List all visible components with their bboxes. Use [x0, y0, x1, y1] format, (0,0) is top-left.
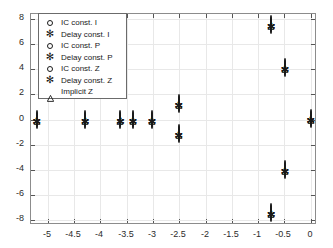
x-axis-tick — [153, 14, 154, 18]
triangle-marker — [33, 111, 40, 128]
legend-marker — [39, 66, 61, 72]
legend-label: Delay const. Z — [61, 75, 112, 86]
circle-marker — [47, 20, 53, 26]
y-axis-tick — [311, 69, 315, 70]
grid-line-vertical — [232, 14, 233, 223]
data-point — [175, 95, 182, 113]
y-axis-tick — [31, 19, 35, 20]
triangle-marker — [148, 111, 155, 128]
y-axis-tick — [31, 69, 35, 70]
x-tick-label: -4 — [84, 229, 114, 239]
grid-line-horizontal — [31, 170, 315, 171]
y-axis-tick — [311, 170, 315, 171]
data-point — [175, 125, 182, 143]
legend-marker: ✻ — [39, 31, 61, 37]
legend-item[interactable]: IC const. P — [39, 40, 126, 52]
data-point — [33, 111, 40, 129]
triangle-marker — [129, 111, 136, 128]
y-axis-tick — [311, 94, 315, 95]
legend-label: IC const. P — [61, 40, 100, 51]
data-point — [148, 111, 155, 129]
grid-line-vertical — [258, 14, 259, 223]
circle-marker — [47, 43, 53, 49]
circle-marker — [47, 66, 53, 72]
asterisk-marker: ✻ — [46, 31, 54, 37]
grid-line-vertical — [284, 14, 285, 223]
x-tick-label: -0.5 — [268, 229, 298, 239]
grid-line-horizontal — [31, 120, 315, 121]
data-point — [117, 111, 124, 129]
triangle-marker — [175, 125, 182, 142]
x-axis-tick — [232, 14, 233, 18]
x-axis-tick — [311, 14, 312, 18]
data-point — [82, 111, 89, 129]
triangle-marker — [47, 88, 54, 95]
legend-label: Implicit Z — [61, 86, 93, 97]
y-tick-label: 2 — [4, 87, 24, 97]
x-tick-label: -2.5 — [163, 229, 193, 239]
triangle-marker — [307, 110, 314, 127]
triangle-marker — [268, 16, 275, 33]
asterisk-marker: ✻ — [46, 77, 54, 83]
triangle-marker — [281, 161, 288, 178]
x-axis-tick — [258, 14, 259, 18]
y-tick-label: 4 — [4, 62, 24, 72]
asterisk-marker: ✻ — [46, 54, 54, 60]
legend-item[interactable]: ✻Delay const. I — [39, 29, 126, 41]
y-tick-label: -4 — [4, 163, 24, 173]
data-point — [268, 16, 275, 34]
y-axis-tick — [31, 220, 35, 221]
x-axis-tick — [284, 14, 285, 18]
y-tick-label: 0 — [4, 113, 24, 123]
y-axis-tick — [311, 220, 315, 221]
y-tick-label: -6 — [4, 188, 24, 198]
grid-line-horizontal — [31, 195, 315, 196]
legend-label: IC const. I — [61, 17, 97, 28]
grid-line-vertical — [206, 14, 207, 223]
legend-marker — [39, 43, 61, 49]
y-axis-tick — [311, 19, 315, 20]
data-point — [281, 161, 288, 179]
data-point — [129, 111, 136, 129]
x-tick-label: 0 — [295, 229, 325, 239]
legend-label: Delay const. I — [61, 29, 109, 40]
y-axis-tick — [311, 44, 315, 45]
y-tick-label: 8 — [4, 12, 24, 22]
triangle-marker — [175, 95, 182, 112]
x-axis-tick — [206, 14, 207, 18]
y-axis-tick — [311, 145, 315, 146]
triangle-marker — [281, 59, 288, 76]
legend-item[interactable]: IC const. Z — [39, 63, 126, 75]
y-tick-label: -8 — [4, 213, 24, 223]
legend-marker: ✻ — [39, 54, 61, 60]
chart-legend[interactable]: IC const. I✻Delay const. IIC const. P✻De… — [38, 13, 127, 99]
data-point — [307, 110, 314, 128]
legend-marker — [39, 20, 61, 26]
y-axis-tick — [311, 195, 315, 196]
legend-item[interactable]: Implicit Z — [39, 86, 126, 98]
x-axis-tick — [179, 14, 180, 18]
y-axis-tick — [31, 94, 35, 95]
legend-item[interactable]: ✻Delay const. Z — [39, 75, 126, 87]
triangle-marker — [82, 111, 89, 128]
legend-item[interactable]: IC const. I — [39, 17, 126, 29]
figure-canvas: ✻✻✻✻✻✻✻✻✻✻✻✻✻✻✻✻✻✻✻✻✻✻✻✻✻✻✻✻✻✻✻✻✻✻✻✻ -5-… — [0, 0, 333, 248]
grid-line-vertical — [179, 14, 180, 223]
triangle-marker — [268, 204, 275, 221]
y-axis-tick — [31, 195, 35, 196]
y-axis-tick — [31, 44, 35, 45]
y-tick-label: -2 — [4, 138, 24, 148]
y-axis-tick — [31, 145, 35, 146]
triangle-marker — [117, 111, 124, 128]
legend-marker — [39, 88, 61, 95]
y-tick-label: 6 — [4, 37, 24, 47]
y-axis-tick — [31, 170, 35, 171]
data-point — [281, 59, 288, 77]
legend-marker: ✻ — [39, 77, 61, 83]
legend-label: Delay const. P — [61, 52, 113, 63]
grid-line-horizontal — [31, 145, 315, 146]
data-point — [268, 204, 275, 222]
legend-item[interactable]: ✻Delay const. P — [39, 52, 126, 64]
x-axis-tick — [127, 14, 128, 18]
legend-label: IC const. Z — [61, 63, 100, 74]
